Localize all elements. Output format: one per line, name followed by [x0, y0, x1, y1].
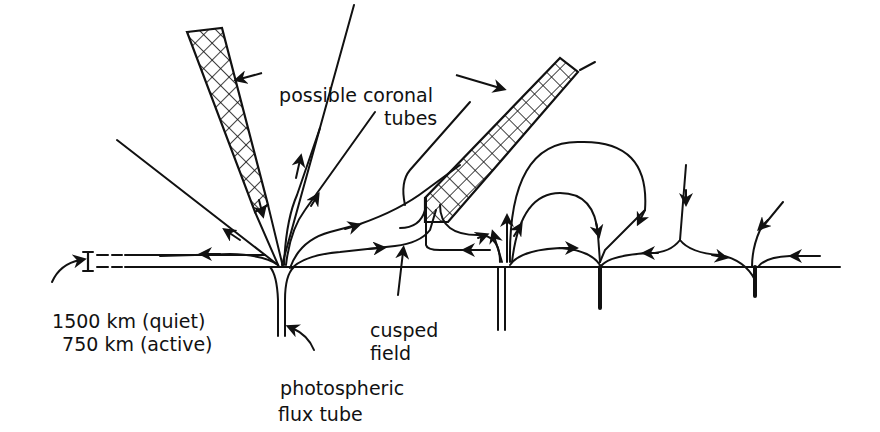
coronal-tube-right	[425, 58, 578, 222]
coronal-tube-left	[187, 28, 268, 212]
photospheric-flux-tube	[270, 267, 278, 336]
height-marker	[83, 252, 122, 271]
height-active-label: 750 km (active)	[50, 311, 213, 355]
field-line-diagram	[0, 0, 880, 432]
coronal-tubes-label-line2: tubes	[372, 85, 437, 129]
flux-tube-label-line2: flux tube	[266, 381, 363, 425]
